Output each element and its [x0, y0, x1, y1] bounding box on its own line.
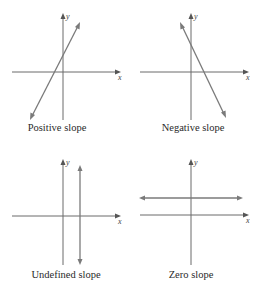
y-axis-label: y — [193, 158, 198, 167]
line-arrow-icon — [30, 113, 35, 121]
x-axis-label: x — [117, 217, 122, 226]
line-arrow-icon — [78, 165, 83, 171]
line-arrow-icon — [221, 111, 226, 119]
negative-slope-line — [182, 26, 224, 114]
line-arrow-icon — [75, 22, 80, 30]
panel-zero-slope: x y Zero slope — [139, 158, 250, 280]
x-axis-label: x — [245, 73, 250, 82]
y-axis-label: y — [193, 12, 198, 21]
x-axis-label: x — [117, 73, 122, 82]
caption-undefined-slope: Undefined slope — [31, 269, 100, 280]
y-axis-arrow-icon — [61, 13, 66, 19]
panel-positive-slope: x y Positive slope — [12, 12, 122, 133]
line-arrow-icon — [180, 22, 185, 30]
line-arrow-icon — [78, 259, 83, 265]
caption-zero-slope: Zero slope — [169, 269, 214, 280]
y-axis-label: y — [65, 158, 70, 167]
x-axis-label: x — [245, 216, 250, 225]
slope-diagram: x y Positive slope x y Negative slope x … — [0, 0, 260, 292]
positive-slope-line — [32, 26, 78, 116]
line-arrow-icon — [139, 196, 145, 201]
y-axis-label: y — [65, 12, 70, 21]
panel-negative-slope: x y Negative slope — [140, 12, 250, 133]
caption-negative-slope: Negative slope — [162, 122, 225, 133]
line-arrow-icon — [237, 196, 243, 201]
panel-undefined-slope: x y Undefined slope — [12, 158, 122, 280]
y-axis-arrow-icon — [61, 159, 66, 165]
caption-positive-slope: Positive slope — [28, 122, 87, 133]
y-axis-arrow-icon — [189, 13, 194, 19]
y-axis-arrow-icon — [189, 159, 194, 165]
